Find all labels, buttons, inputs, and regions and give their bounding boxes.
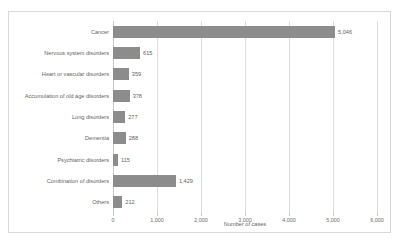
x-tick-mark-0 (113, 213, 114, 216)
chart-row: Nervous system disorders615 (113, 42, 377, 63)
x-tick-mark-3000 (245, 213, 246, 216)
category-label: Long disorders (72, 114, 109, 120)
bar (113, 175, 176, 187)
plot-area: 01,0002,0003,0004,0005,0006,000Cancer5,0… (113, 21, 377, 213)
bar-value-label: 378 (133, 93, 142, 99)
bar (113, 132, 126, 144)
gridline-6000 (377, 21, 378, 213)
category-label: Psychiatric disorders (57, 157, 109, 163)
bar (113, 154, 118, 166)
category-label: Accumulation of old age disorders (25, 93, 109, 99)
category-label: Cancer (91, 29, 109, 35)
x-tick-mark-2000 (201, 213, 202, 216)
category-label: Dementia (85, 135, 109, 141)
category-label: Heart or vascular disorders (42, 71, 109, 77)
x-tick-mark-6000 (377, 213, 378, 216)
clipped-header-strip (0, 0, 399, 11)
chart-row: Long disorders277 (113, 106, 377, 127)
category-label: Combination of disorders (47, 178, 109, 184)
clipped-header-text (64, 0, 344, 4)
chart-row: Accumulation of old age disorders378 (113, 85, 377, 106)
chart-row: Cancer5,046 (113, 21, 377, 42)
chart-screenshot: 01,0002,0003,0004,0005,0006,000Cancer5,0… (0, 0, 399, 242)
bar-value-label: 212 (125, 199, 134, 205)
chart-row: Heart or vascular disorders359 (113, 64, 377, 85)
chart-row: Others212 (113, 192, 377, 213)
x-tick-mark-5000 (333, 213, 334, 216)
x-axis-title: Number of cases (113, 221, 377, 227)
figure-frame: 01,0002,0003,0004,0005,0006,000Cancer5,0… (8, 11, 391, 233)
chart-row: Dementia288 (113, 128, 377, 149)
bar (113, 47, 140, 59)
bar-value-label: 615 (143, 50, 152, 56)
chart-row: Psychiatric disorders115 (113, 149, 377, 170)
x-tick-mark-1000 (157, 213, 158, 216)
x-tick-mark-4000 (289, 213, 290, 216)
bar-value-label: 277 (128, 114, 137, 120)
bar (113, 68, 129, 80)
bar-value-label: 115 (121, 157, 130, 163)
chart-row: Combination of disorders1,429 (113, 170, 377, 191)
category-label: Nervous system disorders (44, 50, 109, 56)
bar-value-label: 359 (132, 71, 141, 77)
bar (113, 196, 122, 208)
bar (113, 90, 130, 102)
bar (113, 111, 125, 123)
bar (113, 26, 335, 38)
bar-value-label: 1,429 (179, 178, 193, 184)
bar-value-label: 5,046 (338, 29, 352, 35)
bar-value-label: 288 (129, 135, 138, 141)
category-label: Others (92, 199, 109, 205)
